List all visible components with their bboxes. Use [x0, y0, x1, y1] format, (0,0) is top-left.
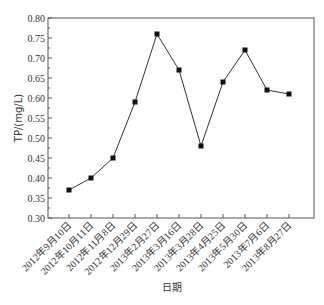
data-point-marker — [287, 92, 292, 97]
y-tick-label: 0.70 — [28, 53, 46, 64]
y-tick-label: 0.65 — [28, 73, 46, 84]
x-axis-title: 日期 — [162, 282, 182, 293]
data-point-marker — [243, 48, 248, 53]
data-point-marker — [199, 144, 204, 149]
y-tick-label: 0.50 — [28, 133, 46, 144]
data-point-marker — [221, 80, 226, 85]
y-tick-label: 0.30 — [28, 213, 46, 224]
data-point-marker — [111, 156, 116, 161]
y-tick-label: 0.35 — [28, 193, 46, 204]
data-point-marker — [89, 176, 94, 181]
y-tick-label: 0.45 — [28, 153, 46, 164]
data-point-marker — [155, 32, 160, 37]
y-tick-label: 0.40 — [28, 173, 46, 184]
tp-line-chart: 0.300.350.400.450.500.550.600.650.700.75… — [0, 0, 324, 305]
plot-frame — [48, 18, 314, 218]
y-tick-label: 0.80 — [28, 13, 46, 24]
data-point-marker — [177, 68, 182, 73]
y-tick-label: 0.75 — [28, 33, 46, 44]
data-point-marker — [133, 100, 138, 105]
data-markers — [67, 32, 292, 193]
x-axis-ticks: 2012年9月10日2012年10月11日2012年11月8日2012年12月2… — [19, 214, 293, 277]
data-point-marker — [265, 88, 270, 93]
y-axis-title: TP/(mg/L) — [13, 94, 24, 143]
y-tick-label: 0.55 — [28, 113, 46, 124]
y-tick-label: 0.60 — [28, 93, 46, 104]
series-line — [69, 34, 289, 190]
data-point-marker — [67, 188, 72, 193]
